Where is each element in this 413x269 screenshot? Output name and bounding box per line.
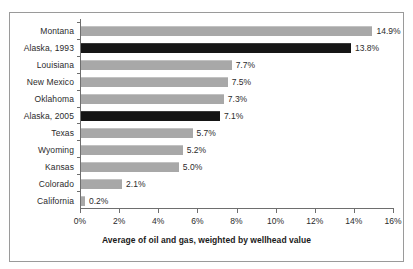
bar	[81, 43, 351, 53]
category-label: Texas	[51, 128, 74, 138]
x-axis-tick	[119, 208, 120, 213]
bar	[81, 111, 220, 121]
x-axis-tick	[315, 208, 316, 213]
x-axis-tick	[354, 208, 355, 213]
bar	[81, 128, 193, 138]
category-label: Alaska, 1993	[24, 43, 74, 53]
bar-row: New Mexico7.5%	[80, 74, 393, 91]
x-axis-tick-label: 0%	[74, 216, 86, 226]
bar	[81, 162, 179, 172]
category-label: Colorado	[39, 179, 74, 189]
x-axis-tick	[197, 208, 198, 213]
bar-rows: Montana14.9%Alaska, 199313.8%Louisiana7.…	[80, 23, 393, 209]
y-axis-tick	[77, 191, 81, 192]
bar	[81, 77, 228, 87]
bar-row: California0.2%	[80, 192, 393, 209]
x-axis-tick	[276, 208, 277, 213]
bar-row: Texas5.7%	[80, 124, 393, 141]
bar-value-label: 0.2%	[89, 196, 108, 206]
x-axis-tick-label: 16%	[384, 216, 401, 226]
category-label: Kansas	[45, 162, 74, 172]
category-label: Wyoming	[38, 145, 74, 155]
x-axis-tick-label: 8%	[230, 216, 242, 226]
bar-row: Oklahoma7.3%	[80, 91, 393, 108]
x-axis-tick	[237, 208, 238, 213]
bar-value-label: 7.3%	[228, 94, 247, 104]
x-axis-tick-label: 4%	[152, 216, 164, 226]
x-axis-tick-label: 10%	[267, 216, 284, 226]
bar-row: Louisiana7.7%	[80, 57, 393, 74]
y-axis-tick	[77, 39, 81, 40]
x-axis-tick	[393, 208, 394, 213]
bar-row: Kansas5.0%	[80, 158, 393, 175]
plot-area: Montana14.9%Alaska, 199313.8%Louisiana7.…	[80, 23, 393, 209]
bar-value-label: 13.8%	[355, 43, 379, 53]
bar-value-label: 7.1%	[224, 111, 243, 121]
bar-row: Alaska, 199313.8%	[80, 40, 393, 57]
bar-value-label: 2.1%	[126, 179, 145, 189]
y-axis-tick	[77, 174, 81, 175]
bar-row: Montana14.9%	[80, 23, 393, 40]
bar-value-label: 7.5%	[232, 77, 251, 87]
x-axis-title: Average of oil and gas, weighted by well…	[10, 235, 403, 245]
y-axis-tick	[77, 107, 81, 108]
x-axis-tick-label: 6%	[191, 216, 203, 226]
y-axis-tick	[77, 22, 81, 23]
bar-row: Colorado2.1%	[80, 175, 393, 192]
category-label: Montana	[40, 26, 74, 36]
chart-frame: Montana14.9%Alaska, 199313.8%Louisiana7.…	[9, 12, 404, 262]
bar-value-label: 5.7%	[197, 128, 216, 138]
x-axis-tick	[158, 208, 159, 213]
bar	[81, 145, 183, 155]
bar-value-label: 14.9%	[376, 26, 400, 36]
bar-value-label: 7.7%	[236, 60, 255, 70]
x-axis-tick-label: 12%	[306, 216, 323, 226]
bar-value-label: 5.0%	[183, 162, 202, 172]
bar	[81, 179, 122, 189]
y-axis-tick	[77, 73, 81, 74]
y-axis-tick	[77, 157, 81, 158]
bar-row: Wyoming5.2%	[80, 141, 393, 158]
x-axis-tick-label: 2%	[113, 216, 125, 226]
category-label: Louisiana	[37, 60, 74, 70]
bar-value-label: 5.2%	[187, 145, 206, 155]
bar	[81, 26, 372, 36]
x-axis-tick-label: 14%	[345, 216, 362, 226]
bar	[81, 60, 232, 70]
y-axis-tick	[77, 56, 81, 57]
x-axis-tick	[80, 208, 81, 213]
category-label: New Mexico	[27, 77, 74, 87]
y-axis-tick	[77, 140, 81, 141]
y-axis-tick	[77, 123, 81, 124]
category-label: Alaska, 2005	[24, 111, 74, 121]
category-label: Oklahoma	[34, 94, 74, 104]
bar	[81, 196, 85, 206]
bar	[81, 94, 224, 104]
bar-row: Alaska, 20057.1%	[80, 108, 393, 125]
y-axis-tick	[77, 90, 81, 91]
category-label: California	[37, 196, 74, 206]
